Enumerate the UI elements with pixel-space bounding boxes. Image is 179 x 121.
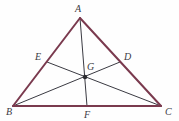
vertex-label-b: B <box>6 107 12 117</box>
point-label-f: F <box>84 110 90 120</box>
vertex-label-a: A <box>75 4 81 14</box>
side-AB <box>13 18 80 106</box>
point-label-d: D <box>124 52 131 62</box>
marked-points <box>83 75 87 79</box>
point-label-e: E <box>35 52 41 62</box>
median-AF <box>80 18 87 106</box>
centroid-point-G <box>83 75 87 79</box>
point-label-g: G <box>87 62 94 72</box>
vertex-label-c: C <box>165 107 172 117</box>
geometry-figure: A B C D E F G <box>0 0 179 121</box>
